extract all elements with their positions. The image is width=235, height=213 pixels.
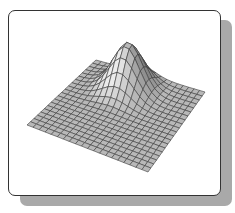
surface-plot xyxy=(0,0,235,213)
